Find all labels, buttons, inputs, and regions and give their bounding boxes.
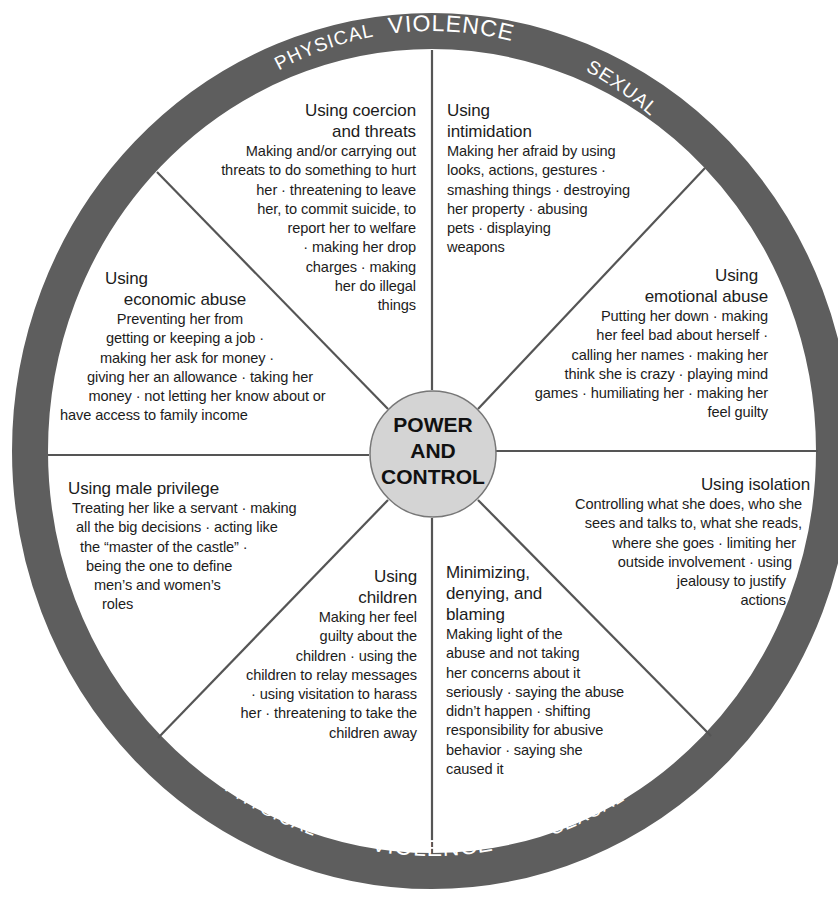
segment-title: Using	[60, 268, 360, 289]
svg-text:AND: AND	[410, 439, 456, 462]
segment-text: think she is crazy · playing mind	[535, 365, 768, 384]
segment-text: weapons	[447, 238, 630, 257]
segment-text: caused it	[446, 760, 624, 779]
segment-text: her property · abusing	[447, 200, 630, 219]
segment-text: Making light of the	[446, 625, 624, 644]
svg-text:CONTROL: CONTROL	[381, 465, 485, 488]
svg-text:POWER: POWER	[393, 413, 472, 436]
segment-text: Making and/or carrying out	[221, 142, 416, 161]
segment-text: Preventing her from	[60, 310, 360, 329]
segment-text: children to relay messages	[241, 666, 417, 685]
segment-text: feel guilty	[535, 403, 768, 422]
segment-text: behavior · saying she	[446, 741, 624, 760]
segment-title: Minimizing,	[446, 562, 624, 583]
segment-text: making her ask for money ·	[60, 349, 360, 368]
segment-title: Using coercion	[221, 100, 416, 121]
segment-title: Using	[535, 265, 768, 286]
segment-text: getting or keeping a job ·	[60, 329, 360, 348]
segment-text: calling her names · making her	[535, 346, 768, 365]
segment-title: blaming	[446, 604, 624, 625]
segment-text: responsibility for abusive	[446, 721, 624, 740]
segment-title: and threats	[221, 121, 416, 142]
segment-text: money · not letting her know about or	[60, 387, 360, 406]
hub-line-3: CONTROL	[381, 465, 485, 488]
segment-text: abuse and not taking	[446, 644, 624, 663]
segment-text: smashing things · destroying	[447, 181, 630, 200]
segment-text: have access to family income	[60, 406, 360, 425]
segment-text: men’s and women’s	[68, 576, 297, 595]
power-control-wheel: POWER AND CONTROL PHYSICAL VIOLENCE SEXU…	[0, 0, 838, 909]
segment-title: emotional abuse	[535, 286, 768, 307]
segment-text: games · humiliating her · making her	[535, 384, 768, 403]
segment-text: guilty about the	[241, 627, 417, 646]
segment-text: pets · displaying	[447, 219, 630, 238]
segment-text: where she goes · limiting her	[575, 534, 810, 553]
segment-text: being the one to define	[68, 557, 297, 576]
segment-text: Putting her down · making	[535, 307, 768, 326]
segment-title: denying, and	[446, 583, 624, 604]
segment-text: didn’t happen · shifting	[446, 702, 624, 721]
segment-text: seriously · saying the abuse	[446, 683, 624, 702]
hub-line-2: AND	[410, 439, 456, 462]
segment-text: roles	[68, 595, 297, 614]
segment-title: economic abuse	[60, 289, 360, 310]
segment-title: Using	[447, 100, 630, 121]
segment-text: giving her an allowance · taking her	[60, 368, 360, 387]
segment-text: her, to commit suicide, to	[221, 200, 416, 219]
segment-text: threats to do something to hurt	[221, 161, 416, 180]
segment-title: intimidation	[447, 121, 630, 142]
segment-text: sees and talks to, what she reads,	[575, 514, 810, 533]
hub-line-1: POWER	[393, 413, 472, 436]
segment-economic-abuse: Using economic abuse Preventing her from…	[60, 268, 360, 426]
segment-text: the “master of the castle” ·	[68, 538, 297, 557]
segment-text: looks, actions, gestures ·	[447, 161, 630, 180]
segment-emotional-abuse: Using emotional abuse Putting her down ·…	[535, 265, 768, 423]
segment-text: Controlling what she does, who she	[575, 495, 810, 514]
segment-text: her · threatening to take the	[241, 704, 417, 723]
segment-text: report her to welfare	[221, 219, 416, 238]
segment-text: children away	[241, 724, 417, 743]
segment-text: Making her afraid by using	[447, 142, 630, 161]
segment-text: Treating her like a servant · making	[68, 499, 297, 518]
segment-male-privilege: Using male privilege Treating her like a…	[68, 478, 297, 615]
segment-text: · using visitation to harass	[241, 685, 417, 704]
segment-title: Using male privilege	[68, 478, 297, 499]
segment-intimidation: Using intimidation Making her afraid by …	[447, 100, 630, 258]
segment-text: all the big decisions · acting like	[68, 518, 297, 537]
segment-minimizing-denying-blaming: Minimizing, denying, and blaming Making …	[446, 562, 624, 779]
segment-text: children · using the	[241, 647, 417, 666]
segment-text: her concerns about it	[446, 664, 624, 683]
segment-text: · making her drop	[221, 238, 416, 257]
segment-text: her feel bad about herself ·	[535, 326, 768, 345]
segment-text: her · threatening to leave	[221, 181, 416, 200]
segment-title: Using isolation	[575, 474, 810, 495]
